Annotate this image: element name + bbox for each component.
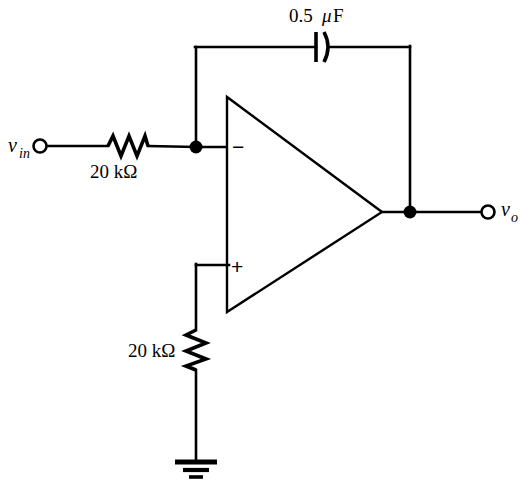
op-amp-integrator-schematic: v in 20 kΩ 0.5 μ F − +: [0, 0, 520, 491]
capacitor-value-number: 0.5: [289, 5, 313, 26]
input-voltage-subscript: in: [19, 146, 30, 161]
inverting-input-node-dot: [190, 141, 203, 154]
capacitor-unit-mu: μ: [321, 5, 332, 26]
output-voltage-symbol: v: [501, 198, 510, 220]
input-voltage-symbol: v: [8, 134, 17, 156]
inverting-input-sign: −: [232, 135, 244, 158]
input-terminal[interactable]: [34, 140, 47, 153]
wire-resistor-to-node: [148, 146, 196, 147]
ground-resistor-label: 20 kΩ: [128, 340, 175, 361]
capacitor-unit-farad: F: [333, 5, 344, 26]
circuit-schematic-figure: v in 20 kΩ 0.5 μ F − +: [0, 0, 520, 491]
noninverting-input-sign: +: [231, 255, 243, 278]
input-resistor-label: 20 kΩ: [90, 161, 137, 182]
output-voltage-subscript: o: [511, 210, 518, 225]
output-node-dot: [404, 206, 417, 219]
output-terminal[interactable]: [482, 206, 495, 219]
